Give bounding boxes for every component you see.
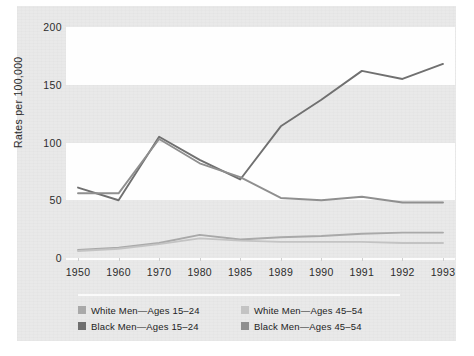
x-tick-label: 1980 <box>187 266 212 278</box>
legend-swatch-black-45-54 <box>241 322 249 330</box>
legend-swatch-white-15-24 <box>78 306 86 314</box>
x-tick <box>443 258 444 261</box>
legend-label-white-15-24: White Men—Ages 15–24 <box>91 305 200 316</box>
x-tick-label: 1991 <box>350 266 375 278</box>
y-axis-title: Rates per 100,000 <box>12 57 24 149</box>
x-tick-label: 1985 <box>228 266 253 278</box>
scan-surface: 200 150 100 50 0 Rates per 100,000 19501… <box>0 0 474 356</box>
legend-swatch-black-15-24 <box>78 322 86 330</box>
legend-item-white-15-24: White Men—Ages 15–24 <box>78 303 241 317</box>
x-tick-label: 1970 <box>147 266 172 278</box>
y-tick-label-100: 100 <box>43 137 62 149</box>
y-tick-label-200: 200 <box>43 21 62 33</box>
x-tick <box>321 258 322 261</box>
x-tick-label: 1950 <box>66 266 91 278</box>
x-tick-label: 1990 <box>309 266 334 278</box>
x-tick <box>159 258 160 261</box>
legend-label-white-45-54: White Men—Ages 45–54 <box>254 305 363 316</box>
legend-label-black-15-24: Black Men—Ages 15–24 <box>91 321 199 332</box>
legend: White Men—Ages 15–24 White Men—Ages 45–5… <box>78 303 418 333</box>
x-tick-label: 1989 <box>268 266 293 278</box>
x-tick-label: 1992 <box>390 266 415 278</box>
figure-panel: 200 150 100 50 0 Rates per 100,000 19501… <box>17 6 456 341</box>
x-tick <box>402 258 403 261</box>
y-tick-label-50: 50 <box>50 194 62 206</box>
legend-label-black-45-54: Black Men—Ages 45–54 <box>254 321 362 332</box>
y-tick-label-0: 0 <box>56 252 62 264</box>
x-tick <box>200 258 201 261</box>
x-tick-label: 1993 <box>431 266 456 278</box>
legend-swatch-white-45-54 <box>241 306 249 314</box>
x-tick <box>78 258 79 261</box>
legend-item-black-45-54: Black Men—Ages 45–54 <box>241 319 404 333</box>
x-tick <box>119 258 120 261</box>
legend-divider <box>78 294 400 296</box>
legend-item-white-45-54: White Men—Ages 45–54 <box>241 303 404 317</box>
y-tick-label-150: 150 <box>43 79 62 91</box>
legend-item-black-15-24: Black Men—Ages 15–24 <box>78 319 241 333</box>
x-tick <box>240 258 241 261</box>
x-tick <box>362 258 363 261</box>
x-axis: 1950196019701980198519891990199119921993 <box>66 6 455 306</box>
x-tick <box>281 258 282 261</box>
x-tick-label: 1960 <box>106 266 131 278</box>
